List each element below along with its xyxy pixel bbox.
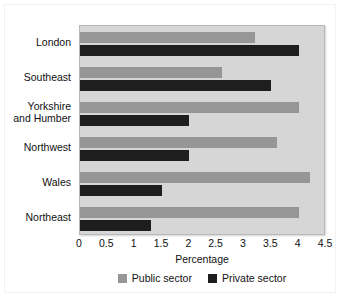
bar-private-sector <box>80 115 189 126</box>
legend-entry: Public sector <box>118 272 192 284</box>
bar-group <box>80 207 324 231</box>
chart-legend: Public sectorPrivate sector <box>79 272 325 284</box>
bar-group <box>80 102 324 126</box>
category-label-line: London <box>3 37 71 49</box>
legend-label: Private sector <box>222 272 286 284</box>
chart-figure: LondonSoutheastYorkshireand HumberNorthw… <box>0 0 340 297</box>
category-label-line: Northwest <box>3 142 71 154</box>
bar-group <box>80 137 324 161</box>
bar-private-sector <box>80 45 299 56</box>
legend-swatch-icon <box>118 274 127 283</box>
x-axis-tick-label: 2.5 <box>208 237 223 249</box>
x-axis-tick-label: 0.5 <box>99 237 114 249</box>
bar-private-sector <box>80 150 189 161</box>
category-label: Yorkshireand Humber <box>3 101 71 124</box>
x-axis-tick-label: 3 <box>240 237 246 249</box>
bar-public-sector <box>80 102 299 113</box>
category-label: Northwest <box>3 142 71 154</box>
category-label: Northeast <box>3 212 71 224</box>
x-axis-tick-label: 4 <box>295 237 301 249</box>
bar-public-sector <box>80 67 222 78</box>
plot-area <box>79 25 325 235</box>
category-label-line: and Humber <box>3 113 71 125</box>
chart-figure-inner: LondonSoutheastYorkshireand HumberNorthw… <box>4 4 336 293</box>
bar-public-sector <box>80 207 299 218</box>
bar-private-sector <box>80 185 162 196</box>
bars-layer <box>80 26 324 234</box>
value-axis-ticks: 00.511.522.533.544.5 <box>79 237 325 251</box>
bar-group <box>80 32 324 56</box>
x-axis-tick-label: 2 <box>185 237 191 249</box>
bar-private-sector <box>80 220 151 231</box>
category-label: London <box>3 37 71 49</box>
bar-public-sector <box>80 137 277 148</box>
bar-group <box>80 172 324 196</box>
legend-swatch-icon <box>208 274 217 283</box>
bar-private-sector <box>80 80 271 91</box>
x-axis-tick-label: 0 <box>76 237 82 249</box>
category-label: Wales <box>3 177 71 189</box>
legend-label: Public sector <box>132 272 192 284</box>
category-axis-labels: LondonSoutheastYorkshireand HumberNorthw… <box>5 25 75 235</box>
x-axis-tick-label: 4.5 <box>318 237 333 249</box>
category-label: Southeast <box>3 72 71 84</box>
bar-group <box>80 67 324 91</box>
legend-entry: Private sector <box>208 272 286 284</box>
x-axis-tick-label: 3.5 <box>263 237 278 249</box>
x-axis-tick-label: 1 <box>131 237 137 249</box>
category-label-line: Southeast <box>3 72 71 84</box>
bar-public-sector <box>80 32 255 43</box>
category-label-line: Yorkshire <box>3 101 71 113</box>
bar-public-sector <box>80 172 310 183</box>
x-axis-tick-label: 1.5 <box>154 237 169 249</box>
x-axis-title: Percentage <box>79 253 325 265</box>
category-label-line: Northeast <box>3 212 71 224</box>
category-label-line: Wales <box>3 177 71 189</box>
